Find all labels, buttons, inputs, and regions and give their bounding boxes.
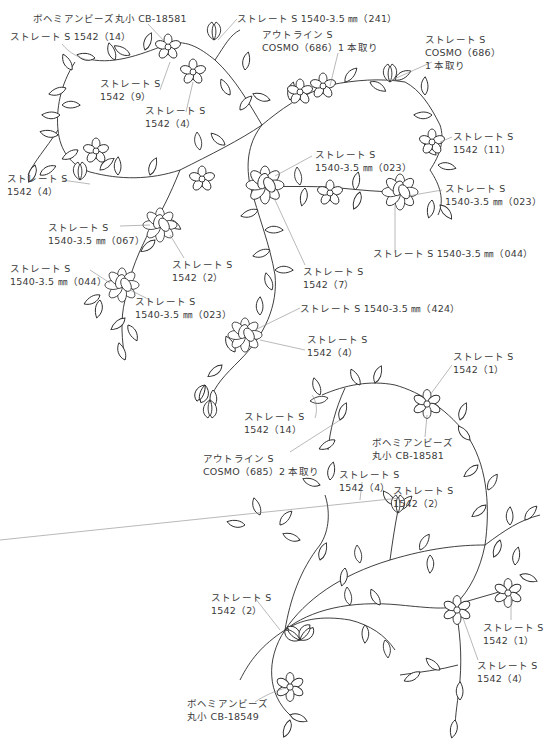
stitch-label-line: ストレート S	[453, 350, 513, 363]
stitch-label-line: 1540-3.5 ㎜（044）	[10, 275, 107, 288]
stitch-label-straight-1540-044-b: ストレート S1540-3.5 ㎜（044）	[10, 262, 107, 288]
stitch-label-bead-bottom: ボヘミアンビーズ丸小 CB-18549	[187, 697, 269, 723]
stitch-label-straight-1542-2-a: ストレート S1542（2）	[172, 258, 232, 284]
stitch-label-line: ボヘミアンビーズ丸小 CB-18581	[33, 12, 187, 25]
stitch-label-straight-1540-424: ストレート S 1540-3.5 ㎜（424）	[300, 302, 461, 315]
stitch-label-line: COSMO（686）1 本取り	[262, 41, 378, 54]
stitch-label-line: ストレート S	[48, 221, 145, 234]
stitch-label-line: ストレート S	[477, 659, 537, 672]
stitch-label-line: ボヘミアンビーズ	[372, 436, 454, 449]
stitch-label-line: ストレート S	[10, 262, 107, 275]
stitch-label-line: ストレート S	[211, 591, 271, 604]
stitch-label-line: アウトライン S	[203, 452, 319, 465]
stitch-label-straight-1542-2-b: ストレート S1542（2）	[393, 484, 453, 510]
stitch-label-line: ストレート S	[339, 468, 399, 481]
stitch-label-straight-1540-023-b: ストレート S1540-3.5 ㎜（023）	[445, 182, 542, 208]
stitch-label-straight-1540-023-c: ストレート S1540-3.5 ㎜（023）	[135, 295, 232, 321]
stitch-label-line: 丸小 CB-18549	[187, 710, 269, 723]
stitch-label-line: 1540-3.5 ㎜（023）	[135, 308, 232, 321]
stitch-label-line: 1540-3.5 ㎜（067）	[48, 234, 145, 247]
stitch-label-line: 丸小 CB-18581	[372, 449, 454, 462]
stitch-label-line: ストレート S 1540-3.5 ㎜（424）	[300, 302, 461, 315]
stitch-label-line: 1542（2）	[172, 271, 232, 284]
stitch-label-line: ストレート S	[307, 333, 367, 346]
stitch-label-line: ストレート S	[244, 410, 304, 423]
stitch-label-line: ストレート S	[425, 33, 501, 46]
stitch-label-line: ストレート S	[145, 104, 205, 117]
stitch-label-line: 1542（4）	[307, 346, 367, 359]
stitch-label-line: ストレート S	[303, 265, 363, 278]
stitch-label-line: ストレート S	[393, 484, 453, 497]
stitch-label-straight-686: ストレート SCOSMO（686）1 本取り	[425, 33, 501, 72]
stitch-label-straight-1542-11: ストレート S1542（11）	[453, 130, 513, 156]
stitch-label-straight-1542-4-b: ストレート S1542（4）	[7, 172, 67, 198]
stitch-label-straight-1542-4-c: ストレート S1542（4）	[307, 333, 367, 359]
stitch-label-straight-1542-4-e: ストレート S1542（4）	[477, 659, 537, 685]
stitch-label-line: 1542（7）	[303, 278, 363, 291]
stitch-label-line: 1542（9）	[100, 90, 160, 103]
stitch-label-straight-1542-4-d: ストレート S1542（4）	[339, 468, 399, 494]
stitch-label-straight-1542-2-c: ストレート S1542（2）	[211, 591, 271, 617]
stitch-label-line: 1542（4）	[477, 672, 537, 685]
embroidery-pattern-drawing	[0, 0, 546, 752]
stitch-label-line: COSMO（686）	[425, 46, 501, 59]
stitch-label-line: ストレート S 1540-3.5 ㎜（241）	[237, 12, 398, 25]
stitch-label-straight-1542-7: ストレート S1542（7）	[303, 265, 363, 291]
stitch-label-line: 1542（1）	[483, 634, 543, 647]
stitch-label-line: ストレート S	[445, 182, 542, 195]
stitch-label-line: 1542（2）	[211, 604, 271, 617]
stitch-label-line: ストレート S	[172, 258, 232, 271]
stitch-label-straight-1542-14-top: ストレート S 1542（14）	[10, 30, 132, 43]
stitch-label-line: ストレート S 1542（14）	[10, 30, 132, 43]
stitch-label-outline-685: アウトライン SCOSMO（685）2 本取り	[203, 452, 319, 478]
stitch-label-straight-1542-4-a: ストレート S1542（4）	[145, 104, 205, 130]
stitch-label-line: ストレート S	[100, 77, 160, 90]
stitch-label-line: 1542（4）	[339, 481, 399, 494]
stitch-label-straight-1540-023-a: ストレート S1540-3.5 ㎜（023）	[315, 148, 412, 174]
stitch-label-straight-1542-14-b: ストレート S1542（14）	[244, 410, 304, 436]
stitch-label-straight-1542-9: ストレート S1542（9）	[100, 77, 160, 103]
stitch-label-line: ストレート S 1540-3.5 ㎜（044）	[373, 247, 534, 260]
stitch-label-straight-1540-067: ストレート S1540-3.5 ㎜（067）	[48, 221, 145, 247]
stitch-label-straight-1540-241: ストレート S 1540-3.5 ㎜（241）	[237, 12, 398, 25]
stitch-label-line: ストレート S	[453, 130, 513, 143]
stitch-label-bead-top: ボヘミアンビーズ丸小 CB-18581	[33, 12, 187, 25]
stitch-label-line: ストレート S	[483, 621, 543, 634]
stitch-label-straight-1542-1-b: ストレート S1542（1）	[483, 621, 543, 647]
stitch-label-line: ストレート S	[135, 295, 232, 308]
stitch-label-line: 1542（11）	[453, 143, 513, 156]
stitch-label-line: 1542（4）	[7, 185, 67, 198]
stitch-label-line: COSMO（685）2 本取り	[203, 465, 319, 478]
stitch-label-bead-mid: ボヘミアンビーズ丸小 CB-18581	[372, 436, 454, 462]
stitch-label-line: 1542（4）	[145, 117, 205, 130]
stitch-label-line: ストレート S	[7, 172, 67, 185]
stitch-label-line: 1542（1）	[453, 363, 513, 376]
stitch-label-straight-1542-1-a: ストレート S1542（1）	[453, 350, 513, 376]
stitch-label-line: アウトライン S	[262, 28, 378, 41]
stitch-label-straight-1540-044-a: ストレート S 1540-3.5 ㎜（044）	[373, 247, 534, 260]
stitch-label-outline-686: アウトライン SCOSMO（686）1 本取り	[262, 28, 378, 54]
stitch-label-line: ボヘミアンビーズ	[187, 697, 269, 710]
stitch-label-line: 1 本取り	[425, 59, 501, 72]
stitch-label-line: 1542（2）	[393, 497, 453, 510]
stitch-label-line: 1540-3.5 ㎜（023）	[445, 195, 542, 208]
stitch-label-line: ストレート S	[315, 148, 412, 161]
stitch-label-line: 1542（14）	[244, 423, 304, 436]
stitch-label-line: 1540-3.5 ㎜（023）	[315, 161, 412, 174]
